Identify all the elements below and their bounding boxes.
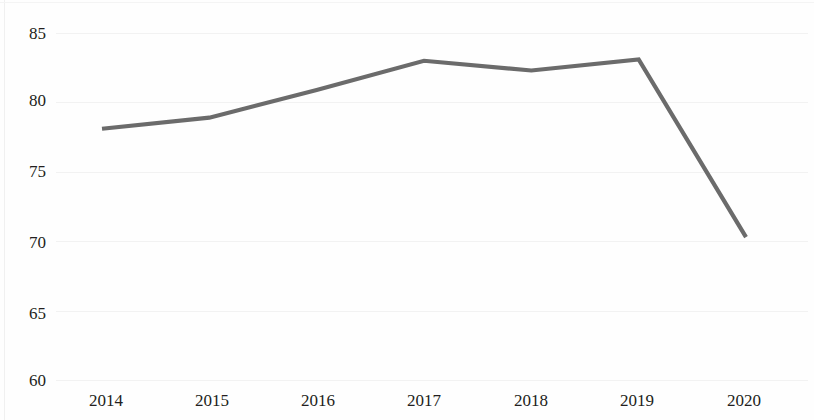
series-layer: [0, 0, 814, 420]
line-chart-figure: 85 80 75 70 65 60 2014 2015 2016 2017 20…: [0, 0, 814, 420]
data-line-series-0: [102, 59, 746, 237]
plot-area: 85 80 75 70 65 60 2014 2015 2016 2017 20…: [0, 0, 814, 420]
